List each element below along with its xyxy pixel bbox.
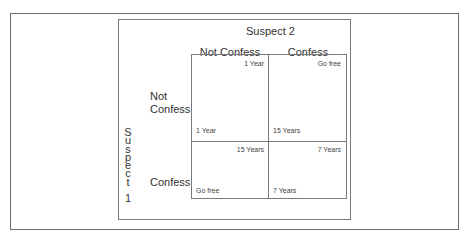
row-header-line1: Not (150, 90, 190, 103)
grid-horizontal-divider (191, 141, 347, 142)
suspect-1-title: S u s p e c t 1 (124, 128, 132, 202)
cell-0-1-suspect1-payoff: 15 Years (273, 127, 300, 134)
cell-0-1-suspect2-payoff: Go free (310, 60, 341, 67)
suspect-1-letter: t (124, 178, 132, 186)
row-header-not-confess: Not Confess (150, 90, 190, 116)
suspect-1-number: 1 (124, 194, 132, 202)
row-header-line2: Confess (150, 103, 190, 116)
cell-1-1-suspect1-payoff: 7 Years (273, 187, 296, 194)
cell-0-0-suspect1-payoff: 1 Year (196, 127, 216, 134)
grid-vertical-divider (268, 54, 269, 199)
row-header-line1: Confess (150, 176, 190, 189)
cell-1-0-suspect2-payoff: 15 Years (230, 146, 264, 153)
suspect-2-title: Suspect 2 (246, 25, 295, 37)
cell-1-0-suspect1-payoff: Go free (196, 187, 219, 194)
cell-1-1-suspect2-payoff: 7 Years (310, 146, 341, 153)
cell-0-0-suspect2-payoff: 1 Year (240, 60, 264, 67)
row-header-confess: Confess (150, 176, 190, 189)
